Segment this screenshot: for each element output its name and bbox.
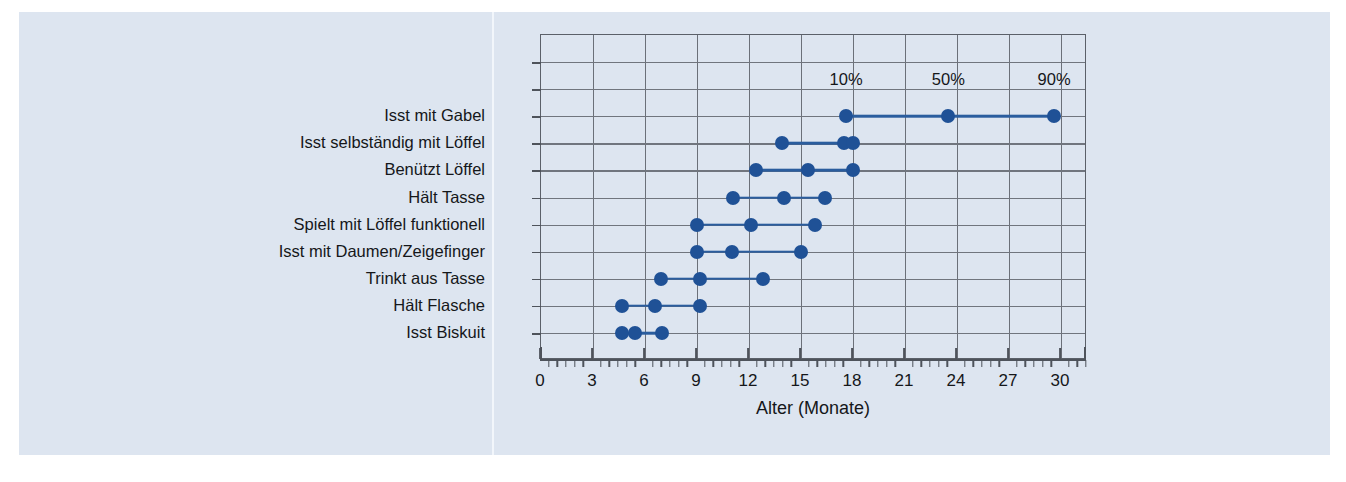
x-axis-major-tick <box>1059 348 1061 359</box>
data-point-p50 <box>628 326 642 340</box>
x-axis-minor-tick <box>635 360 636 367</box>
x-axis-minor-tick <box>617 360 618 367</box>
percentile-label-10pct: 10% <box>830 70 863 89</box>
x-axis-major-tick <box>903 348 905 359</box>
y-axis-tick <box>532 198 541 200</box>
x-axis-major-tick <box>851 348 853 359</box>
data-point-p90 <box>818 191 832 205</box>
category-label: Benützt Löffel <box>384 161 485 178</box>
x-axis-minor-tick <box>1051 360 1052 367</box>
x-axis-tick-label: 27 <box>999 371 1018 391</box>
y-axis-tick <box>532 170 541 172</box>
data-point-p50 <box>777 191 791 205</box>
x-axis-tick-label: 9 <box>691 371 700 391</box>
data-point-p10 <box>839 109 853 123</box>
y-axis-tick <box>532 252 541 254</box>
label-plot-divider <box>492 12 494 455</box>
x-axis-minor-tick <box>964 360 965 367</box>
plot-area: 10%50%90% <box>540 34 1086 359</box>
data-point-p50 <box>725 245 739 259</box>
x-axis-minor-tick <box>669 360 670 367</box>
x-axis-minor-tick <box>1025 360 1026 367</box>
data-point-p50 <box>744 218 758 232</box>
category-label: Hält Tasse <box>408 188 485 205</box>
x-axis-minor-tick <box>938 360 939 367</box>
horizontal-gridline <box>541 62 1085 63</box>
x-axis-minor-tick <box>704 360 705 367</box>
x-axis-minor-tick <box>626 360 627 367</box>
x-axis-minor-tick <box>1085 360 1086 367</box>
y-axis-tick <box>532 225 541 227</box>
x-axis-minor-tick <box>877 360 878 367</box>
x-axis-minor-tick <box>661 360 662 367</box>
data-point-p50 <box>941 109 955 123</box>
x-axis-minor-tick <box>825 360 826 367</box>
category-label: Spielt mit Löffel funktionell <box>294 215 485 232</box>
y-axis-tick <box>532 306 541 308</box>
horizontal-gridline <box>541 279 1085 280</box>
x-axis-major-tick <box>695 348 697 359</box>
percentile-range-line <box>661 277 763 280</box>
x-axis-tick-label: 21 <box>895 371 914 391</box>
data-point-p90 <box>1047 109 1061 123</box>
x-axis-minor-tick <box>1016 360 1017 367</box>
x-axis-minor-tick <box>565 360 566 367</box>
x-axis-major-tick <box>747 348 749 359</box>
category-label: Isst mit Gabel <box>384 107 485 124</box>
x-axis-minor-tick <box>557 360 558 367</box>
data-point-p90 <box>846 136 860 150</box>
horizontal-gridline <box>541 252 1085 253</box>
vertical-gridline <box>645 35 646 358</box>
x-axis-minor-tick <box>929 360 930 367</box>
x-axis-minor-tick <box>600 360 601 367</box>
x-axis-minor-tick <box>609 360 610 367</box>
vertical-gridline <box>593 35 594 358</box>
data-point-p10 <box>615 299 629 313</box>
x-axis-minor-tick <box>886 360 887 367</box>
x-axis-tick-label: 30 <box>1051 371 1070 391</box>
data-point-p50 <box>801 163 815 177</box>
x-axis-minor-tick <box>1077 360 1078 367</box>
x-axis-major-tick <box>1007 348 1009 359</box>
x-axis-minor-tick <box>721 360 722 367</box>
x-axis-tick-label: 24 <box>947 371 966 391</box>
x-axis-major-tick <box>955 348 957 359</box>
y-axis-tick <box>532 143 541 145</box>
category-label: Hält Flasche <box>393 297 485 314</box>
y-axis-tick <box>532 62 541 64</box>
horizontal-gridline <box>541 89 1085 90</box>
x-axis-minor-tick <box>1068 360 1069 367</box>
category-label: Trinkt aus Tasse <box>366 270 485 287</box>
x-axis-minor-tick <box>713 360 714 367</box>
data-point-p90 <box>846 163 860 177</box>
data-point-p50 <box>693 272 707 286</box>
category-label: Isst mit Daumen/Zeigefinger <box>279 242 485 259</box>
x-axis-major-tick <box>799 348 801 359</box>
x-axis-minor-tick <box>834 360 835 367</box>
x-axis-minor-tick <box>756 360 757 367</box>
x-axis-minor-tick <box>687 360 688 367</box>
x-axis-minor-tick <box>869 360 870 367</box>
x-axis-minor-tick <box>791 360 792 367</box>
x-axis-minor-tick <box>1042 360 1043 367</box>
x-axis-minor-tick <box>912 360 913 367</box>
data-point-p10 <box>749 163 763 177</box>
y-axis-tick <box>532 89 541 91</box>
percentile-label-90pct: 90% <box>1038 70 1071 89</box>
x-axis-tick-label: 6 <box>639 371 648 391</box>
x-axis-minor-tick <box>678 360 679 367</box>
x-axis-minor-tick <box>947 360 948 367</box>
x-axis-tick-label: 15 <box>791 371 810 391</box>
x-axis-minor-tick <box>782 360 783 367</box>
x-axis-major-tick <box>643 348 645 359</box>
x-axis-minor-tick <box>981 360 982 367</box>
x-axis-minor-tick <box>817 360 818 367</box>
data-point-p10 <box>726 191 740 205</box>
data-point-p90 <box>655 326 669 340</box>
data-point-p10 <box>690 245 704 259</box>
x-axis-tick-label: 3 <box>587 371 596 391</box>
percentile-label-50pct: 50% <box>932 70 965 89</box>
x-axis-minor-tick <box>652 360 653 367</box>
x-axis-major-tick <box>539 348 541 359</box>
x-axis-minor-tick <box>765 360 766 367</box>
